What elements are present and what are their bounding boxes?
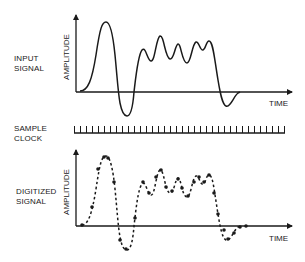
digitized-x-axis-label: TIME [269, 234, 288, 243]
input-y-axis-label: AMPLITUDE [62, 34, 71, 80]
input-x-axis-label: TIME [269, 99, 288, 108]
digitized-y-axis-label: AMPLITUDE [62, 169, 71, 215]
input-signal-plot: AMPLITUDE TIME [62, 15, 292, 116]
sample-clock [74, 126, 285, 133]
diagram-canvas: AMPLITUDE TIME [0, 0, 305, 262]
digitized-signal-plot: AMPLITUDE TIME [62, 150, 292, 251]
clock-ticks [75, 126, 285, 133]
input-signal-waveform [80, 22, 240, 116]
